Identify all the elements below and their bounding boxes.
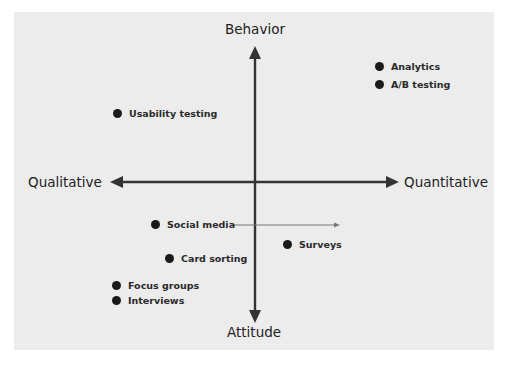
- axis-label-bottom: Attitude: [227, 326, 281, 340]
- item-label: Social media: [167, 220, 235, 230]
- item-ab-testing: A/B testing: [375, 80, 450, 90]
- item-label: Usability testing: [129, 109, 217, 119]
- bullet-dot-icon: [112, 296, 121, 305]
- arrow-right-icon: [386, 176, 399, 188]
- arrow-up-icon: [249, 46, 261, 59]
- item-label: Focus groups: [128, 281, 199, 291]
- item-label: A/B testing: [391, 80, 450, 90]
- item-analytics: Analytics: [375, 62, 440, 72]
- item-interviews: Interviews: [112, 296, 184, 306]
- bullet-dot-icon: [165, 254, 174, 263]
- item-usability-testing: Usability testing: [113, 109, 217, 119]
- item-focus-groups: Focus groups: [112, 281, 199, 291]
- arrow-down-icon: [249, 310, 261, 323]
- item-label: Interviews: [128, 296, 184, 306]
- axis-label-top: Behavior: [225, 23, 285, 37]
- item-label: Analytics: [391, 62, 440, 72]
- bullet-dot-icon: [112, 281, 121, 290]
- axis-label-right: Quantitative: [404, 176, 488, 190]
- bullet-dot-icon: [283, 240, 292, 249]
- bullet-dot-icon: [375, 62, 384, 71]
- item-label: Card sorting: [181, 254, 247, 264]
- item-social-media: Social media: [151, 220, 235, 230]
- bullet-dot-icon: [113, 109, 122, 118]
- social-media-arrowhead-icon: [334, 223, 340, 228]
- arrow-left-icon: [110, 176, 123, 188]
- axis-label-left: Qualitative: [28, 176, 102, 190]
- item-label: Surveys: [299, 240, 342, 250]
- bullet-dot-icon: [375, 80, 384, 89]
- bullet-dot-icon: [151, 220, 160, 229]
- item-surveys: Surveys: [283, 240, 342, 250]
- item-card-sorting: Card sorting: [165, 254, 247, 264]
